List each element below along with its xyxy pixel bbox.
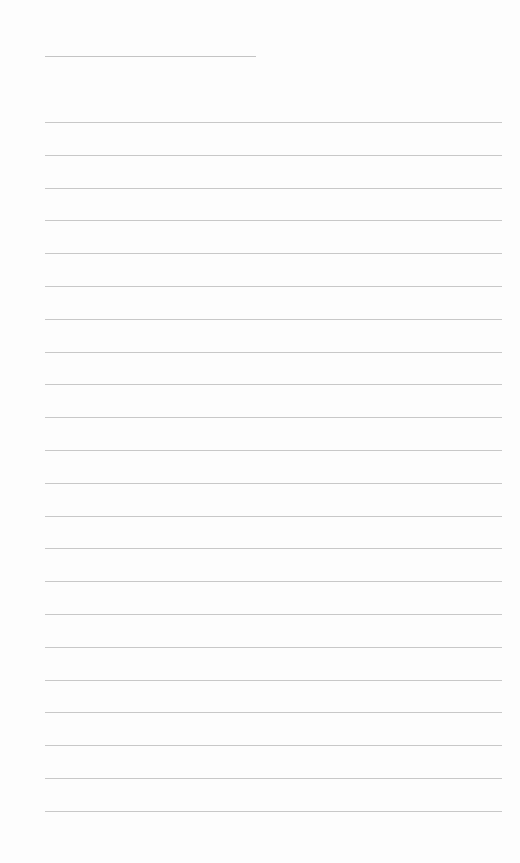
ruled-line [45,647,502,648]
ruled-line [45,712,502,713]
ruled-line [45,680,502,681]
ruled-line [45,253,502,254]
ruled-line [45,450,502,451]
ruled-line [45,811,502,812]
ruled-line [45,352,502,353]
ruled-line [45,155,502,156]
ruled-line [45,286,502,287]
ruled-line [45,483,502,484]
lined-paper-page [0,0,520,863]
ruled-line [45,122,502,123]
ruled-line [45,319,502,320]
ruled-line [45,188,502,189]
title-underline [45,56,256,57]
ruled-line [45,745,502,746]
ruled-line [45,384,502,385]
ruled-line [45,614,502,615]
ruled-line [45,220,502,221]
ruled-line [45,417,502,418]
ruled-line [45,581,502,582]
ruled-line [45,516,502,517]
ruled-line [45,778,502,779]
ruled-line [45,548,502,549]
